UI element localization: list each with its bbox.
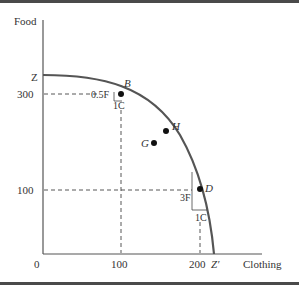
b-food-change: 0.5F bbox=[91, 89, 110, 100]
g-label: G bbox=[141, 137, 149, 149]
d-food-change: 3F bbox=[180, 192, 191, 203]
x-tick-200: 200 bbox=[189, 258, 206, 270]
b-label: B bbox=[124, 77, 131, 89]
point-h bbox=[163, 128, 169, 134]
d-cloth-change: 1C bbox=[195, 212, 207, 223]
x-tick-0: 0 bbox=[34, 258, 40, 270]
frontier-curve bbox=[43, 75, 214, 254]
z-label: Z bbox=[31, 71, 38, 83]
y-tick-300: 300 bbox=[17, 88, 34, 100]
h-label: H bbox=[171, 120, 181, 132]
point-d bbox=[197, 186, 203, 192]
point-g bbox=[151, 140, 157, 146]
b-cloth-change: 1C bbox=[113, 100, 125, 111]
x-tick-100: 100 bbox=[111, 258, 128, 270]
d-label: D bbox=[204, 182, 213, 194]
x-axis-label: Clothing bbox=[243, 258, 282, 270]
ppf-chart: Food Clothing Z 300 100 0 100 200 Z′ B H… bbox=[0, 0, 299, 285]
zprime-label: Z′ bbox=[211, 258, 220, 270]
y-tick-100: 100 bbox=[17, 184, 34, 196]
point-b bbox=[118, 91, 124, 97]
y-axis-label: Food bbox=[14, 15, 37, 27]
